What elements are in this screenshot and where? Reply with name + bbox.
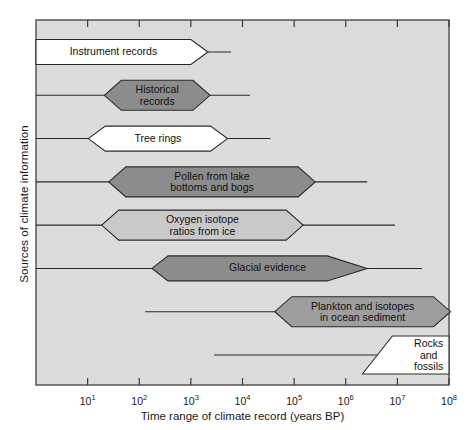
x-tick-label-5: 106	[338, 393, 354, 407]
climate-record-chart: Sources of climate information Time rang…	[0, 0, 470, 430]
range-bar	[36, 40, 208, 65]
range-bar	[275, 297, 451, 327]
plot-frame	[36, 20, 449, 385]
x-axis-label: Time range of climate record (years BP)	[36, 410, 449, 422]
x-tick-label-0: 101	[80, 393, 96, 407]
x-tick-label-2: 103	[183, 393, 199, 407]
x-tick-label-7: 108	[441, 393, 457, 407]
x-tick-label-1: 102	[131, 393, 147, 407]
x-tick-label-6: 107	[389, 393, 405, 407]
range-bar	[88, 126, 227, 151]
plot-area	[0, 0, 470, 430]
x-tick-label-4: 105	[286, 393, 302, 407]
x-tick-label-3: 104	[235, 393, 251, 407]
range-bar	[104, 80, 210, 110]
range-bar	[109, 167, 315, 197]
range-bar	[152, 256, 367, 281]
range-bar	[102, 210, 303, 240]
